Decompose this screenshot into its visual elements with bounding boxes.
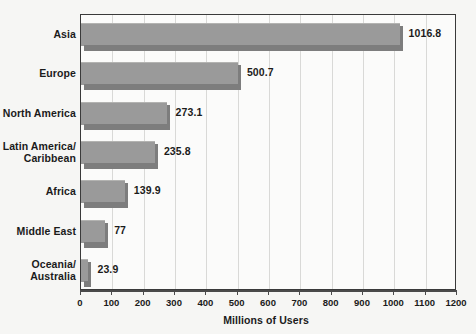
category-label: Asia (0, 28, 76, 40)
bar-shadow (84, 124, 170, 130)
bar-face (81, 259, 88, 282)
bar-cap (105, 223, 108, 245)
x-axis-title-text: Millions of Users (223, 314, 309, 326)
x-axis-tick (456, 290, 457, 295)
bar-cap (88, 262, 91, 284)
category-label-line: Australia (0, 270, 76, 282)
bar-shadow (84, 45, 403, 51)
bar-value-label: 139.9 (134, 184, 161, 196)
bar-cap (155, 144, 158, 166)
bar-cap (167, 105, 170, 127)
category-label: Middle East (0, 225, 76, 237)
category-label-line: North America (0, 107, 76, 119)
x-axis-tick (299, 290, 300, 295)
x-axis-tick-label: 800 (323, 297, 339, 308)
x-axis-tick (174, 290, 175, 295)
x-axis-tick (268, 290, 269, 295)
x-axis-tick-label: 100 (103, 297, 119, 308)
bar (81, 220, 109, 248)
category-label-line: Europe (0, 67, 76, 79)
bars-layer (81, 15, 455, 289)
bar-face (81, 23, 400, 46)
bar-face (81, 220, 105, 243)
bar-value-label: 77 (114, 224, 126, 236)
x-axis-tick (143, 290, 144, 295)
x-axis-tick (80, 290, 81, 295)
x-axis-tick (237, 290, 238, 295)
x-axis-tick (425, 290, 426, 295)
category-label-line: Caribbean (0, 152, 76, 164)
bar-face (81, 102, 167, 125)
category-label: Latin America/Caribbean (0, 140, 76, 164)
bar-cap (400, 26, 403, 48)
bar (81, 180, 129, 208)
x-axis-tick-label: 900 (354, 297, 370, 308)
bar (81, 62, 242, 90)
bar-value-label: 273.1 (176, 106, 203, 118)
x-axis-tick-label: 500 (229, 297, 245, 308)
category-label: Oceania/Australia (0, 258, 76, 282)
bar-shadow (84, 84, 241, 90)
bar-value-label: 1016.8 (409, 27, 442, 39)
x-axis-tick (331, 290, 332, 295)
category-label-line: Middle East (0, 225, 76, 237)
category-label: North America (0, 107, 76, 119)
bar (81, 102, 171, 130)
x-axis-tick-label: 0 (77, 297, 82, 308)
category-label: Europe (0, 67, 76, 79)
x-axis-tick-label: 1200 (445, 297, 466, 308)
bar-face (81, 180, 125, 203)
x-axis-ticks (80, 290, 456, 296)
bar-value-label: 500.7 (247, 66, 274, 78)
category-label: Africa (0, 185, 76, 197)
x-axis-tick-label: 1100 (414, 297, 435, 308)
bar-face (81, 141, 155, 164)
bar-value-label: 235.8 (164, 145, 191, 157)
bar-face (81, 62, 238, 85)
category-axis-labels: AsiaEuropeNorth AmericaLatin America/Car… (0, 14, 76, 290)
x-axis-tick-labels: 0100200300400500600700800900100011001200 (0, 297, 476, 311)
x-axis-tick-label: 300 (166, 297, 182, 308)
x-axis-tick-label: 1000 (383, 297, 404, 308)
x-axis-tick-label: 700 (291, 297, 307, 308)
bar-shadow (84, 163, 158, 169)
category-label-line: Asia (0, 28, 76, 40)
bar (81, 23, 404, 51)
x-axis-tick-label: 400 (197, 297, 213, 308)
category-label-line: Oceania/ (0, 258, 76, 270)
plot-area (80, 14, 456, 290)
bar-cap (238, 65, 241, 87)
x-axis-tick (111, 290, 112, 295)
category-label-line: Latin America/ (0, 140, 76, 152)
bar (81, 141, 159, 169)
x-axis-tick-label: 200 (135, 297, 151, 308)
bar-chart: AsiaEuropeNorth AmericaLatin America/Car… (0, 0, 476, 334)
x-axis-tick (362, 290, 363, 295)
bar-cap (125, 183, 128, 205)
x-axis-title: Millions of Users (0, 314, 476, 326)
x-axis-tick (393, 290, 394, 295)
bar (81, 259, 92, 287)
x-axis-tick (205, 290, 206, 295)
category-label-line: Africa (0, 185, 76, 197)
bar-shadow (84, 202, 128, 208)
bar-value-label: 23.9 (97, 263, 118, 275)
x-axis-tick-label: 600 (260, 297, 276, 308)
